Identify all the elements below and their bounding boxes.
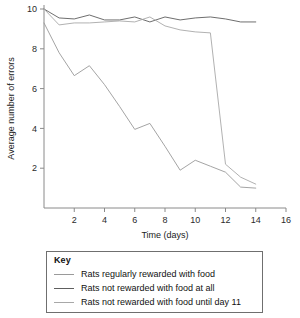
legend-item-label: Rats not rewarded with food until day 11 bbox=[81, 296, 241, 308]
chart-legend: Key Rats regularly rewarded with food Ra… bbox=[46, 251, 263, 313]
y-axis-tick-label: 6 bbox=[32, 84, 37, 94]
x-axis-tick-label: 14 bbox=[251, 215, 261, 225]
legend-title: Key bbox=[54, 255, 71, 265]
x-axis-tick-label: 4 bbox=[102, 215, 107, 225]
y-axis-tick-label: 4 bbox=[32, 124, 37, 134]
series-line-2 bbox=[44, 9, 256, 184]
x-axis-tick-label: 16 bbox=[281, 215, 291, 225]
x-axis-tick-label: 8 bbox=[162, 215, 167, 225]
x-axis-tick-label: 6 bbox=[132, 215, 137, 225]
y-axis-tick-label: 10 bbox=[27, 4, 37, 14]
x-axis-tick-label: 10 bbox=[190, 215, 200, 225]
legend-item-not-rewarded-until-day-11: Rats not rewarded with food until day 11 bbox=[54, 296, 241, 308]
legend-swatch-icon bbox=[54, 274, 74, 275]
series-line-0 bbox=[44, 23, 256, 188]
legend-swatch-icon bbox=[54, 288, 74, 289]
legend-item-label: Rats not rewarded with food at all bbox=[81, 282, 215, 294]
series-line-1 bbox=[44, 9, 256, 22]
y-axis-title: Average number of errors bbox=[6, 57, 16, 160]
legend-item-label: Rats regularly rewarded with food bbox=[81, 268, 215, 280]
legend-item-not-rewarded-at-all: Rats not rewarded with food at all bbox=[54, 282, 215, 294]
legend-item-regularly-rewarded: Rats regularly rewarded with food bbox=[54, 268, 215, 280]
y-axis-tick-label: 2 bbox=[32, 163, 37, 173]
x-axis-tick-label: 2 bbox=[72, 215, 77, 225]
legend-swatch-icon bbox=[54, 302, 74, 303]
x-axis-tick-label: 12 bbox=[220, 215, 230, 225]
line-chart-plot: 246810246810121416Time (days)Average num… bbox=[0, 0, 300, 245]
y-axis-tick-label: 8 bbox=[32, 44, 37, 54]
chart-figure: 246810246810121416Time (days)Average num… bbox=[0, 0, 300, 318]
x-axis-title: Time (days) bbox=[141, 230, 188, 240]
